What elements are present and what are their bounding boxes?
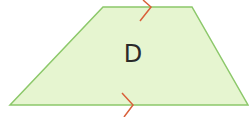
- shape-label: D: [124, 40, 142, 68]
- trapezoid-diagram: D: [0, 0, 249, 117]
